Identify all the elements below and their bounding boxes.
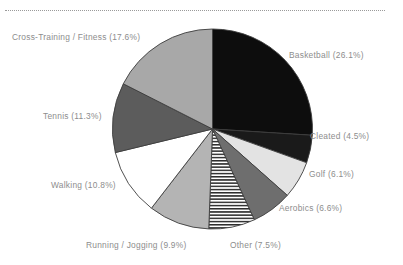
slice-label-tennis: Tennis (11.3%): [43, 111, 102, 121]
slice-label-running: Running / Jogging (9.9%): [86, 240, 187, 250]
pie-chart-page: Cross-Training / Fitness (17.6%) Basketb…: [0, 0, 403, 265]
pie-slices: [112, 29, 312, 229]
slice-label-golf: Golf (6.1%): [309, 169, 354, 179]
pie-slice[interactable]: [213, 29, 313, 135]
slice-label-walking: Walking (10.8%): [51, 180, 116, 190]
slice-label-basketball: Basketball (26.1%): [289, 50, 364, 60]
slice-label-aerobics: Aerobics (6.6%): [279, 203, 342, 213]
slice-label-other: Other (7.5%): [230, 240, 281, 250]
slice-label-cross-training: Cross-Training / Fitness (17.6%): [12, 32, 140, 42]
slice-label-cleated: Cleated (4.5%): [310, 131, 369, 141]
